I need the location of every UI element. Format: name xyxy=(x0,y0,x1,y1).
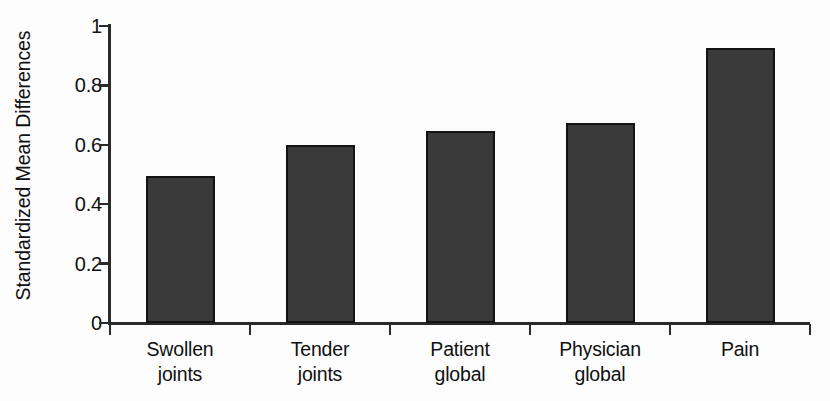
y-axis-tick-labels: 10.80.60.40.20 xyxy=(45,0,102,401)
x-category-label: Physicianglobal xyxy=(530,337,670,387)
y-axis-title: Standardized Mean Differences xyxy=(0,0,48,330)
y-tick-label: 0.8 xyxy=(50,74,102,97)
x-category-label-line2: joints xyxy=(250,362,390,387)
bar-pain xyxy=(706,48,775,323)
bar-patient-global xyxy=(426,131,495,323)
x-tick-mark xyxy=(249,324,252,335)
bar-chart: Standardized Mean Differences 10.80.60.4… xyxy=(0,0,830,401)
x-tick-mark xyxy=(669,324,672,335)
x-tick-mark xyxy=(529,324,532,335)
y-tick-mark xyxy=(99,203,109,206)
x-category-label: Pain xyxy=(670,337,810,362)
x-category-label: Patientglobal xyxy=(390,337,530,387)
y-tick-mark xyxy=(99,262,109,265)
bar-tender-joints xyxy=(286,145,355,323)
x-category-label-line1: Patient xyxy=(430,338,489,360)
x-tick-mark xyxy=(809,324,812,335)
y-tick-label: 0.6 xyxy=(50,133,102,156)
x-category-label-line2: global xyxy=(390,362,530,387)
x-category-label-line1: Pain xyxy=(721,338,759,360)
x-category-label: Swollenjoints xyxy=(110,337,250,387)
y-tick-mark xyxy=(99,322,109,325)
x-category-label-line2: joints xyxy=(110,362,250,387)
x-category-label-line1: Tender xyxy=(291,338,349,360)
x-tick-mark xyxy=(109,324,112,335)
y-tick-label: 0.4 xyxy=(50,193,102,216)
y-tick-label: 1 xyxy=(50,15,102,38)
y-axis-title-text: Standardized Mean Differences xyxy=(13,30,36,300)
y-tick-mark xyxy=(99,144,109,147)
y-tick-mark xyxy=(99,84,109,87)
bar-physician-global xyxy=(566,123,635,323)
x-category-label-line1: Physician xyxy=(559,338,641,360)
y-tick-label: 0 xyxy=(50,312,102,335)
y-tick-mark xyxy=(99,25,109,28)
x-category-label-line2: global xyxy=(530,362,670,387)
x-tick-mark xyxy=(389,324,392,335)
y-tick-label: 0.2 xyxy=(50,252,102,275)
x-category-label: Tenderjoints xyxy=(250,337,390,387)
bar-swollen-joints xyxy=(146,176,215,323)
plot-area xyxy=(110,26,810,323)
x-category-label-line1: Swollen xyxy=(147,338,214,360)
